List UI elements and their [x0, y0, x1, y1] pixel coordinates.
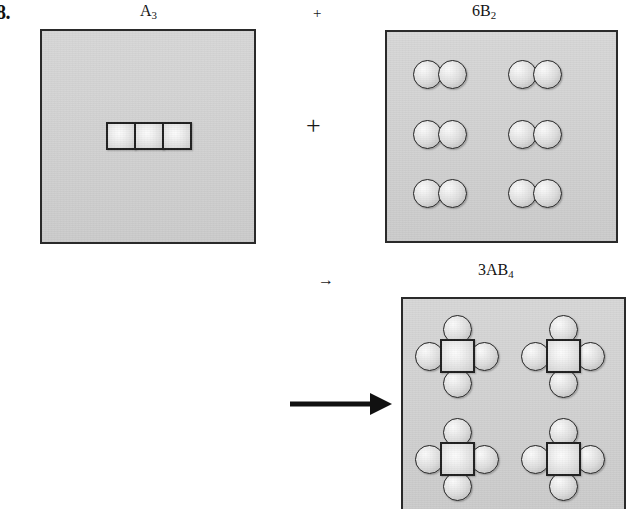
atom-b-sphere [443, 369, 472, 398]
reactant-a-label-subscript: 3 [152, 9, 157, 21]
reactant-b-label-subscript: 2 [491, 9, 496, 21]
atom-b-sphere [438, 179, 467, 208]
atom-a-square [546, 442, 581, 476]
product-box [401, 297, 626, 509]
problem-number: 8. [0, 2, 10, 22]
atom-a-square [162, 122, 192, 150]
atom-a-square [440, 339, 475, 373]
reaction-arrow-icon [290, 393, 392, 415]
reaction-arrow-head [370, 393, 392, 415]
atom-b-sphere [443, 472, 472, 501]
arrow-small: → [318, 272, 334, 288]
molecule-ab4 [415, 315, 499, 399]
plus-sign-middle: + [306, 113, 321, 139]
molecule-ab4 [521, 315, 605, 399]
molecule-ab4 [521, 418, 605, 502]
atom-b-sphere [549, 472, 578, 501]
reaction-arrow-shaft [290, 402, 374, 407]
reactant-b-box [385, 30, 618, 243]
product-label-subscript: 4 [508, 268, 513, 280]
molecule-ab4 [415, 418, 499, 502]
plus-sign-top: + [313, 6, 321, 21]
atom-a-square [440, 442, 475, 476]
atom-b-sphere [533, 120, 562, 149]
atom-a-square [134, 122, 164, 150]
reactant-a-label-text: A [140, 2, 152, 19]
atom-a-square [546, 339, 581, 373]
atom-b-sphere [438, 120, 467, 149]
reactant-b-label: 6B2 [472, 3, 496, 19]
reactant-a-box [40, 29, 256, 244]
atom-a-square [106, 122, 136, 150]
atom-b-sphere [533, 60, 562, 89]
atom-b-sphere [533, 179, 562, 208]
product-label: 3AB4 [478, 262, 514, 278]
atom-b-sphere [549, 369, 578, 398]
reactant-b-label-text: 6B [472, 2, 491, 19]
atom-b-sphere [438, 60, 467, 89]
reactant-a-label: A3 [140, 3, 157, 19]
product-label-text: 3AB [478, 261, 508, 278]
